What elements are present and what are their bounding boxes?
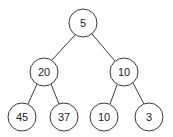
edge-10-3	[133, 83, 144, 104]
tree-node-leaf-4: 3	[135, 103, 163, 131]
tree-node-right: 10	[110, 58, 138, 86]
edge-5-20	[52, 35, 75, 60]
tree-diagram: 5 20 10 45 37 10 3	[0, 0, 173, 137]
node-label: 10	[98, 111, 110, 123]
tree-node-leaf-2: 37	[50, 103, 78, 131]
node-label: 10	[118, 66, 130, 78]
edge-20-37	[51, 84, 59, 104]
node-label: 37	[58, 111, 70, 123]
node-label: 45	[16, 111, 28, 123]
node-label: 3	[146, 111, 152, 123]
node-label: 20	[38, 66, 50, 78]
edge-20-45	[28, 84, 37, 104]
tree-node-left: 20	[30, 58, 58, 86]
tree-node-leaf-3: 10	[90, 103, 118, 131]
node-label: 5	[80, 17, 86, 29]
edge-5-10	[92, 34, 115, 61]
tree-node-root: 5	[69, 9, 97, 37]
edge-10-10	[110, 85, 117, 104]
tree-node-leaf-1: 45	[8, 103, 36, 131]
